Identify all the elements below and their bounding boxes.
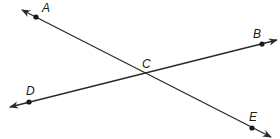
- label-e: E: [249, 110, 258, 124]
- point-e-dot: [249, 125, 254, 130]
- label-b: B: [253, 27, 261, 41]
- point-d-dot: [26, 99, 31, 104]
- lines-diagram: A B C D E: [0, 0, 280, 139]
- point-a-dot: [33, 14, 38, 19]
- line-AE: [22, 10, 271, 137]
- diagram-canvas: A B C D E: [0, 0, 280, 139]
- point-b-dot: [259, 41, 264, 46]
- label-d: D: [26, 84, 35, 98]
- label-a: A: [41, 1, 50, 15]
- label-c: C: [142, 57, 151, 71]
- line-DB: [10, 40, 277, 107]
